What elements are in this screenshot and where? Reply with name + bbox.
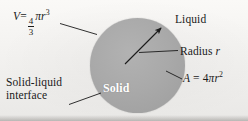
interface-label: Solid-liquid interface [6,76,78,102]
radius-symbol: r [216,45,221,57]
volume-formula-label: V=43πr3 [13,10,50,37]
leader-line-radius [139,51,178,53]
radius-arrow [125,28,161,64]
solid-label: Solid [103,82,130,95]
interface-label-line1: Solid-liquid [6,76,62,88]
volume-exponent: 3 [46,8,50,17]
interface-label-line2: interface [6,89,47,101]
sphere-diagram-figure: V=43πr3 Liquid Radius r A = 4πr2 Solid-l… [0,0,248,121]
volume-fraction-numerator: 4 [28,17,35,26]
radius-label-text: Radius [180,45,213,57]
volume-fraction-denominator: 3 [28,26,35,36]
liquid-label: Liquid [175,13,206,26]
volume-fraction: 43 [28,17,35,37]
leader-line-volume [60,24,97,35]
radius-label: Radius r [180,45,220,58]
area-exponent: 2 [219,70,223,79]
volume-equals: = [20,10,27,22]
leader-line-area [166,71,182,79]
area-variable: A [183,72,190,84]
area-equals: = [193,72,200,84]
diagram-canvas: V=43πr3 Liquid Radius r A = 4πr2 Solid-l… [0,0,248,121]
area-formula-label: A = 4πr2 [183,72,223,85]
